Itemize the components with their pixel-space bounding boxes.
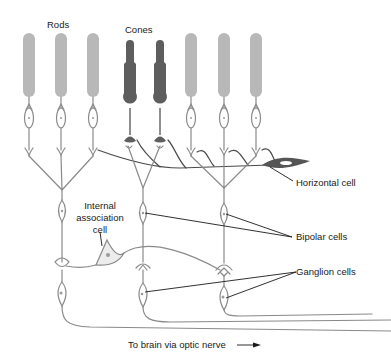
rod-5: [218, 33, 230, 97]
retina-diagram: Rods Cones Horizontal cell Internal asso…: [0, 0, 391, 353]
rod-nuclei-group: [25, 97, 261, 156]
rod-2: [55, 33, 67, 97]
internal-association-cell-body: [96, 240, 124, 265]
cones-group: [123, 40, 167, 143]
internal-association-label-line1: Internal: [84, 200, 116, 211]
rod-4: [185, 33, 197, 97]
ganglion-cell-2: [139, 283, 147, 307]
rod-6: [250, 33, 262, 97]
cones-label: Cones: [125, 24, 153, 35]
rod-3: [87, 33, 99, 97]
ganglion-cells-label: Ganglion cells: [296, 266, 356, 277]
rod-1: [23, 33, 35, 97]
rods-group: [23, 33, 262, 97]
internal-association-label-line2: association: [76, 212, 124, 223]
leader-lines-group: [145, 167, 296, 348]
bipolar-cells-label: Bipolar cells: [296, 231, 347, 242]
cone-1: [123, 40, 137, 104]
rods-label: Rods: [47, 19, 69, 30]
internal-association-label-line3: cell: [93, 224, 107, 235]
horizontal-cell-group: [98, 140, 310, 168]
cone-2: [153, 40, 167, 104]
optic-nerve-label: To brain via optic nerve: [128, 339, 226, 350]
horizontal-cell-label: Horizontal cell: [296, 177, 356, 188]
